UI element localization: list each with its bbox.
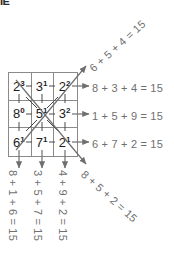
cell-value-r2c3: 32 xyxy=(59,107,71,120)
grid-cell-r1c1: 23 xyxy=(9,73,32,101)
cell-value-r1c3: 22 xyxy=(59,80,71,93)
row-equation-1: 8 + 3 + 4 = 15 xyxy=(92,82,163,94)
grid-cell-r3c2: 71 xyxy=(32,128,55,156)
cell-value-r3c2: 71 xyxy=(36,136,48,149)
grid-cell-r2c3: 32 xyxy=(54,101,77,129)
column-equation-3: 4 + 9 + 2 = 15 xyxy=(57,170,69,260)
grid-cell-r2c2: 51 xyxy=(32,101,55,129)
cell-value-r2c1: 80 xyxy=(13,107,25,120)
cell-value-r3c3: 21 xyxy=(59,136,71,149)
grid-cell-r3c1: 61 xyxy=(9,128,32,156)
diagonal-equation-up: 6 + 5 + 4 = 15 xyxy=(87,17,148,73)
cropped-text-artifact: ΙΕ xyxy=(0,0,9,7)
grid-cell-r3c3: 21 xyxy=(54,128,77,156)
diagonal-equation-down: 8 + 5 + 2 = 15 xyxy=(79,168,140,224)
column-equation-1: 8 + 1 + 6 = 15 xyxy=(7,170,19,260)
row-equation-2: 1 + 5 + 9 = 15 xyxy=(92,110,163,122)
grid-cell-r1c2: 31 xyxy=(32,73,55,101)
grid-cell-r1c3: 22 xyxy=(54,73,77,101)
cell-value-r2c2: 51 xyxy=(36,107,48,120)
magic-square-figure: ΙΕ 23 31 22 80 51 32 61 71 21 xyxy=(0,0,174,262)
magic-square-grid: 23 31 22 80 51 32 61 71 21 xyxy=(8,72,78,157)
row-equation-3: 6 + 7 + 2 = 15 xyxy=(92,138,163,150)
grid-cell-r2c1: 80 xyxy=(9,101,32,129)
column-equation-2: 3 + 5 + 7 = 15 xyxy=(32,170,44,260)
cell-value-r3c1: 61 xyxy=(13,136,25,149)
cell-value-r1c1: 23 xyxy=(13,80,25,93)
cell-value-r1c2: 31 xyxy=(36,80,48,93)
